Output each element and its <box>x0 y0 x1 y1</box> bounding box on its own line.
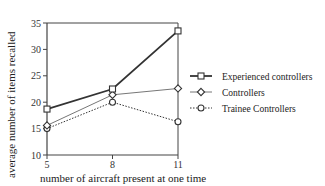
square-marker <box>110 86 116 92</box>
legend-item: Trainee Controllers <box>190 104 296 114</box>
x-axis-label: number of aircraft present at one time <box>40 172 206 184</box>
legend: Experienced controllersControllersTraine… <box>190 72 313 114</box>
series-line <box>47 102 178 128</box>
line-chart: 1015202530355811 Experienced controllers… <box>0 0 325 186</box>
square-marker-icon <box>198 73 204 79</box>
diamond-marker-icon <box>197 88 204 95</box>
x-tick-label: 11 <box>173 159 183 170</box>
circle-marker <box>175 119 181 125</box>
y-tick-label: 20 <box>31 97 41 108</box>
square-marker <box>175 28 181 34</box>
y-tick-label: 30 <box>31 44 41 55</box>
y-tick-label: 25 <box>31 70 41 81</box>
legend-item: Experienced controllers <box>190 72 313 82</box>
y-tick-label: 15 <box>31 123 41 134</box>
axes: 1015202530355811 <box>31 18 183 171</box>
circle-marker-icon <box>198 105 204 111</box>
x-tick-label: 8 <box>110 159 115 170</box>
y-tick-label: 10 <box>31 150 41 161</box>
legend-label: Trainee Controllers <box>222 104 296 114</box>
legend-label: Controllers <box>222 88 265 98</box>
legend-item: Controllers <box>190 88 265 98</box>
square-marker <box>44 106 50 112</box>
circle-marker <box>110 99 116 105</box>
series-group <box>43 28 181 132</box>
y-tick-label: 35 <box>31 18 41 29</box>
diamond-marker <box>174 85 181 92</box>
legend-label: Experienced controllers <box>222 72 313 82</box>
y-axis-label: average number of items recalled <box>5 31 17 178</box>
x-tick-label: 5 <box>45 159 50 170</box>
